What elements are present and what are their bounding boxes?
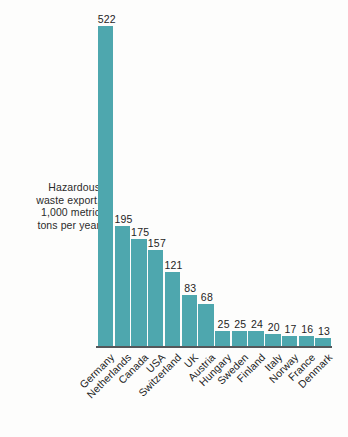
bar-group: 68 [198, 26, 215, 346]
bar-value-label: 83 [184, 282, 196, 294]
bar-value-label: 68 [201, 291, 213, 303]
bar-group: 83 [182, 26, 199, 346]
bar-value-label: 20 [268, 321, 280, 333]
bar-group: 24 [248, 26, 265, 346]
bar-group: 20 [265, 26, 282, 346]
bar-group: 175 [131, 26, 148, 346]
bars-container: 522195175157121836825252420171613 [98, 26, 332, 346]
bar-value-label: 16 [301, 323, 313, 335]
bar-rect [299, 336, 314, 346]
y-axis-caption: Hazardous waste export, 1,000 metric ton… [10, 181, 100, 231]
bar-value-label: 121 [165, 259, 183, 271]
bar-group: 157 [148, 26, 165, 346]
bar-rect [131, 239, 146, 346]
bar-rect [265, 334, 280, 346]
bar-rect [215, 331, 230, 346]
bar-group: 522 [98, 26, 115, 346]
bar-rect [182, 295, 197, 346]
bar-value-label: 522 [98, 13, 116, 25]
bar-group: 25 [215, 26, 232, 346]
bar-rect [148, 250, 163, 346]
bar-group: 25 [232, 26, 249, 346]
bar-value-label: 195 [114, 213, 132, 225]
bar-chart-figure: Hazardous waste export, 1,000 metric ton… [0, 0, 348, 437]
plot-area: 522195175157121836825252420171613 [98, 26, 332, 346]
bar-rect [165, 272, 180, 346]
x-axis-category-labels: GermanyNetherlandsCanadaUSASwitzerlandUK… [98, 349, 332, 434]
bar-group: 121 [165, 26, 182, 346]
bar-value-label: 25 [218, 318, 230, 330]
bar-value-label: 175 [131, 226, 149, 238]
bar-value-label: 157 [148, 237, 166, 249]
bar-rect [315, 338, 330, 346]
bar-group: 195 [115, 26, 132, 346]
bar-group: 13 [315, 26, 332, 346]
bar-group: 17 [282, 26, 299, 346]
bar-group: 16 [299, 26, 316, 346]
bar-rect [282, 336, 297, 346]
bar-rect [115, 226, 130, 346]
bar-value-label: 24 [251, 318, 263, 330]
bar-rect [98, 26, 113, 346]
bar-value-label: 25 [234, 318, 246, 330]
bar-value-label: 17 [284, 323, 296, 335]
bar-value-label: 13 [318, 325, 330, 337]
bar-rect [248, 331, 263, 346]
bar-rect [232, 331, 247, 346]
x-axis-baseline [96, 346, 332, 348]
bar-rect [198, 304, 213, 346]
